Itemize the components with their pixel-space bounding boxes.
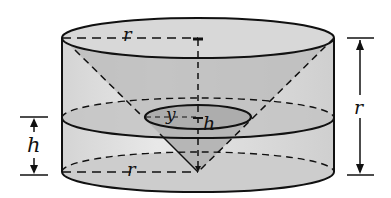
diagram-canvas [0,0,391,198]
label-right-dimension: r [354,98,363,117]
left-dim-arrow-up [30,118,38,127]
left-dim-arrow-down [30,165,38,174]
label-bottom-radius: r [127,161,136,179]
label-left-dimension: h [27,135,41,156]
label-top-radius: r [123,26,132,44]
label-inner-height: h [203,114,215,133]
cylinder-cone-diagram: r r y h h r [0,0,391,198]
right-dim-arrow-down [356,164,364,174]
right-dim-arrow-up [356,40,364,50]
label-section-radius: y [166,106,176,123]
